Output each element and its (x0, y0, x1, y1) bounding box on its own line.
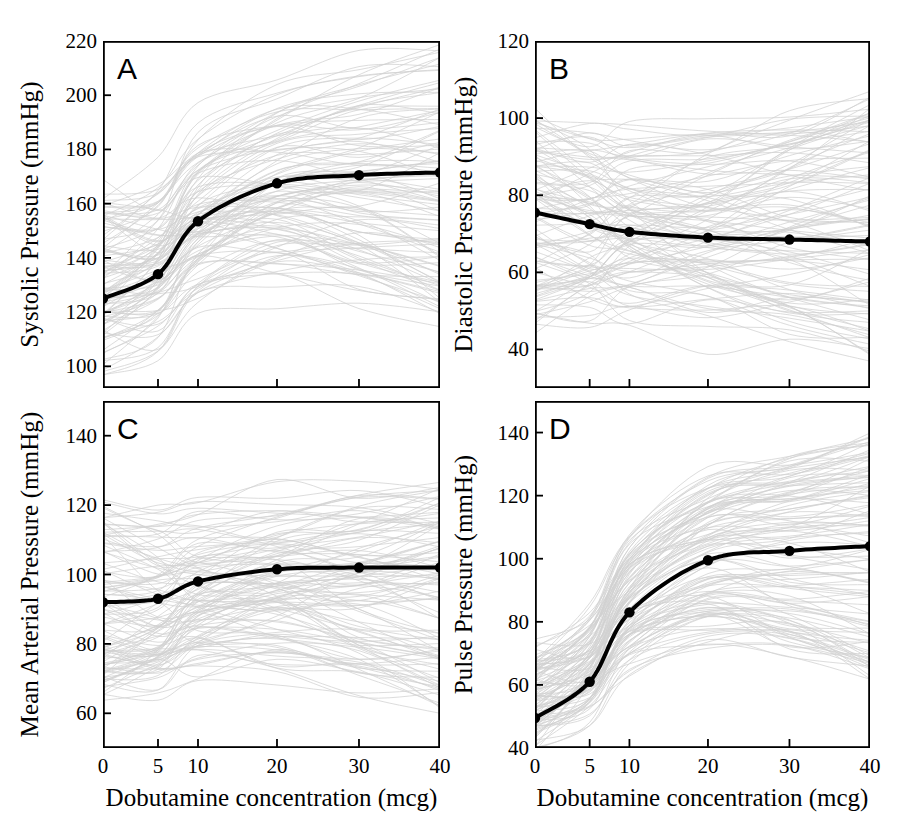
panel-a-plot-area (103, 41, 440, 388)
y-tick-label: 100 (39, 563, 97, 588)
data-point-marker (193, 216, 203, 226)
y-tick-label: 80 (39, 632, 97, 657)
panel-c-letter: C (117, 414, 139, 444)
data-point-marker (354, 170, 364, 180)
x-tick-label: 0 (83, 754, 123, 779)
data-point-marker (272, 178, 282, 188)
data-point-marker (272, 564, 282, 574)
y-tick-label: 160 (39, 192, 97, 217)
data-point-marker (624, 227, 634, 237)
data-point-marker (784, 234, 794, 244)
x-tick-label: 10 (178, 754, 218, 779)
data-point-marker (703, 232, 713, 242)
panel-b-diastolic (535, 41, 870, 388)
panel-c-plot-area (103, 401, 440, 748)
panel-b-letter: B (549, 54, 569, 84)
y-tick-label: 60 (471, 260, 529, 285)
panel-a-systolic (103, 41, 440, 388)
x-tick-label: 30 (339, 754, 379, 779)
data-point-marker (153, 594, 163, 604)
y-tick-label: 120 (39, 300, 97, 325)
y-tick-label: 220 (39, 29, 97, 54)
data-point-marker (584, 677, 594, 687)
panel-b-y-axis-label: Diastolic Pressure (mmHg) (450, 41, 478, 388)
panel-c-x-axis-label: Dobutamine concentration (mcg) (43, 784, 500, 812)
y-tick-label: 100 (471, 106, 529, 131)
data-point-marker (153, 269, 163, 279)
x-tick-label: 5 (570, 754, 610, 779)
x-tick-label: 40 (850, 754, 890, 779)
x-tick-label: 20 (257, 754, 297, 779)
y-tick-label: 80 (471, 610, 529, 635)
y-tick-label: 100 (39, 354, 97, 379)
figure-four-panel-blood-pressure: Systolic Pressure (mmHg) A Diastolic Pre… (0, 0, 904, 839)
panel-a-letter: A (117, 54, 137, 84)
panel-d-plot-area (535, 401, 870, 748)
x-tick-label: 5 (138, 754, 178, 779)
y-tick-label: 120 (471, 29, 529, 54)
y-tick-label: 100 (471, 547, 529, 572)
data-point-marker (354, 562, 364, 572)
panel-d-pulse-pressure (535, 401, 870, 748)
y-tick-label: 180 (39, 137, 97, 162)
y-tick-label: 140 (39, 246, 97, 271)
y-tick-label: 140 (471, 421, 529, 446)
x-tick-label: 20 (688, 754, 728, 779)
data-point-marker (193, 576, 203, 586)
panel-d-x-axis-label: Dobutamine concentration (mcg) (475, 784, 904, 812)
y-tick-label: 120 (39, 493, 97, 518)
data-point-marker (624, 607, 634, 617)
panel-d-letter: D (549, 414, 571, 444)
panel-b-plot-area (535, 41, 870, 388)
x-tick-label: 40 (420, 754, 460, 779)
x-tick-label: 10 (609, 754, 649, 779)
y-tick-label: 80 (471, 183, 529, 208)
data-point-marker (784, 546, 794, 556)
x-tick-label: 0 (515, 754, 555, 779)
panel-c-mean-arterial (103, 401, 440, 748)
y-tick-label: 200 (39, 83, 97, 108)
y-tick-label: 60 (39, 701, 97, 726)
y-tick-label: 40 (471, 337, 529, 362)
data-point-marker (584, 219, 594, 229)
y-tick-label: 120 (471, 484, 529, 509)
y-tick-label: 140 (39, 424, 97, 449)
x-tick-label: 30 (769, 754, 809, 779)
data-point-marker (703, 555, 713, 565)
y-tick-label: 60 (471, 673, 529, 698)
